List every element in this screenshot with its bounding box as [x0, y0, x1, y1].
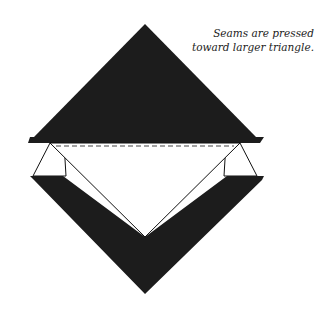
pressing-diagram — [0, 0, 322, 314]
top-seam-flap — [28, 137, 264, 143]
top-dark-triangle — [34, 24, 256, 137]
